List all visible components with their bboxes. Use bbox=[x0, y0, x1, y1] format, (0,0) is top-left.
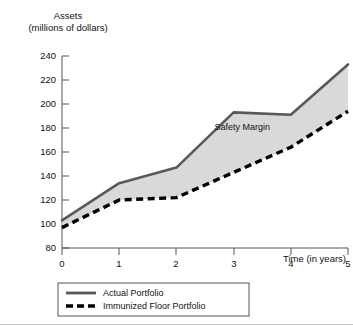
y-axis-tick-labels: 80 100 120 140 160 180 200 220 240 bbox=[40, 50, 56, 253]
y-tick-label-200: 200 bbox=[40, 98, 56, 109]
x-tick-label-3: 3 bbox=[231, 258, 236, 269]
y-axis-title-line1: Assets bbox=[54, 10, 83, 21]
y-tick-label-100: 100 bbox=[40, 218, 56, 229]
legend-label-immunized-floor-portfolio: Immunized Floor Portfolio bbox=[103, 301, 206, 311]
x-tick-label-2: 2 bbox=[173, 258, 178, 269]
y-tick-label-120: 120 bbox=[40, 194, 56, 205]
y-tick-label-80: 80 bbox=[45, 242, 56, 253]
y-tick-label-180: 180 bbox=[40, 122, 56, 133]
chart-legend: Actual Portfolio Immunized Floor Portfol… bbox=[58, 283, 249, 316]
legend-label-actual-portfolio: Actual Portfolio bbox=[103, 288, 164, 298]
y-tick-label-140: 140 bbox=[40, 170, 56, 181]
y-tick-label-220: 220 bbox=[40, 74, 56, 85]
x-tick-label-5: 5 bbox=[345, 258, 350, 269]
y-tick-label-240: 240 bbox=[40, 50, 56, 61]
x-tick-label-1: 1 bbox=[116, 258, 121, 269]
x-tick-label-0: 0 bbox=[59, 258, 64, 269]
y-tick-label-160: 160 bbox=[40, 146, 56, 157]
y-axis-title-line2: (millions of dollars) bbox=[28, 22, 107, 33]
page-bottom-divider bbox=[0, 324, 353, 325]
assets-safety-margin-chart: Assets (millions of dollars) 80 100 120 … bbox=[0, 0, 353, 331]
safety-margin-annotation: Safety Margin bbox=[214, 122, 270, 132]
x-axis-title: Time (in years) bbox=[283, 253, 346, 264]
